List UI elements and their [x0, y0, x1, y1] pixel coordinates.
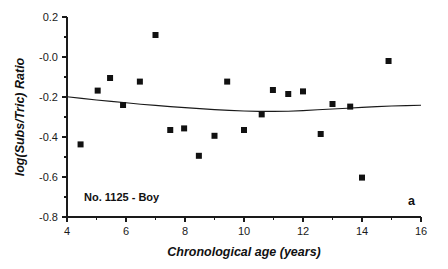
y-tick-label: -0.8: [39, 211, 58, 223]
y-tick-label: -0.6: [39, 171, 58, 183]
x-tick-label: 16: [415, 225, 427, 237]
data-point-marker: [167, 127, 173, 133]
data-point-marker: [212, 133, 218, 139]
data-point-marker: [330, 101, 336, 107]
data-point-marker: [120, 102, 126, 108]
data-point-marker: [386, 58, 392, 64]
chart-figure: 0.2-0.0-0.2-0.4-0.6-0.8 46810121416 Chro…: [0, 0, 448, 269]
data-point-marker: [259, 111, 265, 117]
x-tick-label: 8: [182, 225, 188, 237]
data-point-marker: [347, 104, 353, 110]
data-point-marker: [107, 75, 113, 81]
data-point-marker: [137, 79, 143, 85]
y-tick-label: -0.0: [39, 51, 58, 63]
data-point-marker: [181, 125, 187, 131]
x-tick-label: 6: [123, 225, 129, 237]
data-point-marker: [359, 175, 365, 181]
x-tick-label: 4: [64, 225, 70, 237]
x-axis-title: Chronological age (years): [167, 245, 321, 259]
y-tick-label: -0.2: [39, 91, 58, 103]
panel-letter-annotation: a: [408, 194, 416, 208]
subject-annotation: No. 1125 - Boy: [84, 191, 160, 203]
y-tick-label: -0.4: [39, 131, 58, 143]
data-point-marker: [153, 32, 159, 38]
data-point-marker: [318, 131, 324, 137]
x-tick-label: 12: [297, 225, 309, 237]
data-point-marker: [285, 91, 291, 97]
y-tick-label: 0.2: [43, 11, 58, 23]
data-point-marker: [78, 141, 84, 147]
data-point-marker: [270, 87, 276, 93]
data-point-marker: [224, 79, 230, 85]
y-axis-title: log(Subs/Tric) Ratio: [13, 57, 27, 176]
data-point-marker: [95, 88, 101, 94]
x-tick-label: 10: [238, 225, 250, 237]
scatter-plot-svg: 0.2-0.0-0.2-0.4-0.6-0.8 46810121416 Chro…: [0, 0, 448, 269]
data-point-marker: [196, 153, 202, 159]
data-point-marker: [241, 127, 247, 133]
x-tick-label: 14: [356, 225, 368, 237]
data-point-marker: [300, 88, 306, 94]
